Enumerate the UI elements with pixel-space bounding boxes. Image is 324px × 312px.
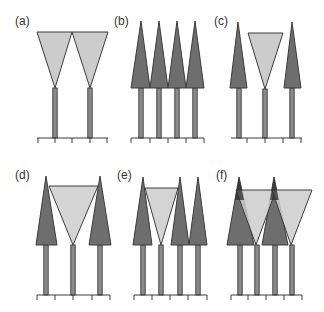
panel-label: (d) — [15, 168, 30, 182]
tree-stem — [141, 245, 145, 295]
tree-stem — [238, 245, 242, 295]
tree-stem — [53, 88, 57, 138]
ground-axis — [131, 138, 204, 143]
ground-axis — [37, 138, 108, 143]
tree-stem — [175, 88, 179, 138]
tree-stem — [193, 88, 197, 138]
ground-axis — [231, 295, 302, 300]
tree-stem — [88, 88, 92, 138]
panel-label: (a) — [15, 14, 30, 28]
panel-e: (e) — [117, 168, 207, 300]
tree-stem — [290, 88, 294, 138]
dark-crown-tip — [235, 177, 244, 200]
dark-crown — [133, 177, 152, 245]
tree-stem — [44, 245, 48, 295]
ground-axis — [231, 138, 302, 143]
tree-stem — [196, 245, 200, 295]
ground-axis — [134, 295, 207, 300]
panel-label: (f) — [216, 168, 227, 182]
tree-stem — [71, 245, 75, 295]
tree-stem — [273, 245, 277, 295]
tree-stem — [263, 89, 267, 138]
panel-f: (f) — [216, 168, 312, 300]
tree-stem — [159, 245, 163, 295]
panel-label: (b) — [114, 14, 129, 28]
tree-stem — [290, 245, 294, 295]
tree-stem — [178, 245, 182, 295]
ground-axis — [37, 295, 110, 300]
panel-label: (c) — [214, 14, 228, 28]
panel-a: (a) — [15, 14, 108, 143]
dark-crown — [131, 21, 150, 88]
light-crown — [37, 32, 72, 88]
dark-crown-tip — [270, 177, 279, 200]
dark-crown — [189, 177, 207, 245]
dark-crown — [150, 21, 168, 88]
panel-c: (c) — [214, 14, 302, 143]
panel-d: (d) — [15, 168, 111, 300]
light-crown — [248, 33, 283, 89]
dark-crown — [230, 22, 247, 88]
light-crown — [72, 32, 108, 88]
tree-stem — [255, 245, 259, 295]
tree-stem — [98, 245, 102, 295]
dark-crown — [168, 21, 186, 88]
tree-stem — [139, 88, 143, 138]
panel-label: (e) — [117, 168, 132, 182]
dark-crown — [171, 177, 189, 245]
tree-stem — [157, 88, 161, 138]
dark-crown — [186, 21, 204, 88]
tree-stem — [237, 88, 241, 138]
panel-b: (b) — [114, 14, 204, 143]
canopy-diagram: (a)(b)(c)(d)(e)(f) — [0, 0, 324, 312]
dark-crown — [284, 22, 301, 88]
